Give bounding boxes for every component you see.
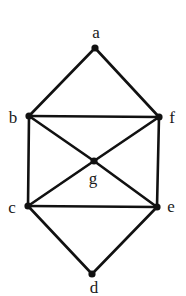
node-g <box>90 157 97 164</box>
edge-g-e <box>94 161 157 207</box>
node-f <box>155 113 162 120</box>
edge-f-e <box>157 117 159 207</box>
edge-a-b <box>29 48 95 116</box>
edge-b-g <box>29 116 94 161</box>
node-c <box>24 202 31 209</box>
node-label-b: b <box>9 108 18 127</box>
node-label-e: e <box>167 197 175 216</box>
edge-c-e <box>28 206 157 207</box>
node-label-a: a <box>92 23 100 42</box>
node-label-g: g <box>89 169 98 188</box>
node-b <box>25 112 32 119</box>
node-e <box>153 203 160 210</box>
edge-a-f <box>95 48 159 117</box>
edge-c-d <box>28 206 92 274</box>
node-label-f: f <box>169 108 175 127</box>
edge-f-g <box>94 117 159 161</box>
node-a <box>91 44 98 51</box>
node-label-c: c <box>8 198 16 217</box>
node-d <box>88 270 95 277</box>
edge-b-c <box>28 116 29 206</box>
nodes-group <box>24 44 162 277</box>
graph-diagram: abfgced <box>0 0 186 296</box>
edge-e-d <box>92 207 157 274</box>
edge-g-c <box>28 161 94 206</box>
edge-b-f <box>29 116 159 117</box>
node-label-d: d <box>90 278 99 296</box>
